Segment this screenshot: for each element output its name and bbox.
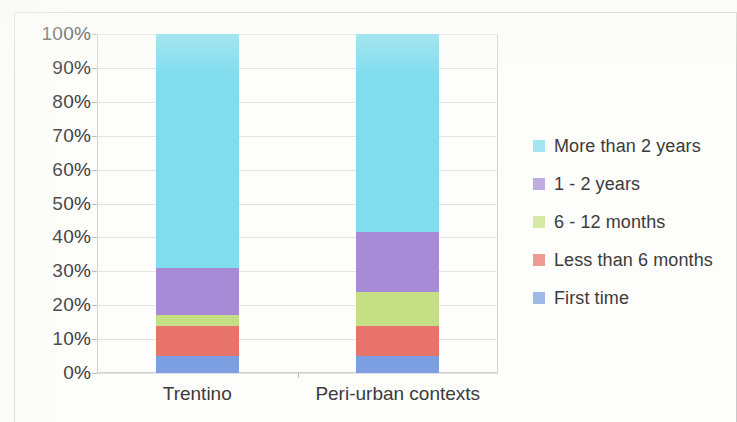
y-tick-mark xyxy=(92,34,97,35)
legend-entry[interactable]: 1 - 2 years xyxy=(533,165,731,203)
y-tick-mark xyxy=(92,68,97,69)
y-axis-tick-label: 80% xyxy=(13,91,91,113)
bar-segment[interactable] xyxy=(356,356,439,373)
bar-segment[interactable] xyxy=(356,232,439,291)
legend-swatch-icon xyxy=(533,140,545,152)
bar-segment[interactable] xyxy=(156,268,239,315)
bar-column[interactable] xyxy=(156,34,239,373)
y-axis-tick-label: 40% xyxy=(13,226,91,248)
bar-segment[interactable] xyxy=(156,356,239,373)
bar-segment[interactable] xyxy=(356,292,439,326)
legend-entry[interactable]: Less than 6 months xyxy=(533,241,731,279)
y-axis-tick-label: 30% xyxy=(13,260,91,282)
legend-swatch-icon xyxy=(533,178,545,190)
legend-entry[interactable]: 6 - 12 months xyxy=(533,203,731,241)
x-axis-category-label: Peri-urban contexts xyxy=(248,383,548,405)
y-axis-tick-label: 100% xyxy=(13,23,91,45)
bar-segment[interactable] xyxy=(356,326,439,357)
legend-label: 1 - 2 years xyxy=(554,174,640,195)
y-axis-tick-label: 20% xyxy=(13,294,91,316)
chart-legend: More than 2 years1 - 2 years6 - 12 month… xyxy=(533,127,731,317)
legend-swatch-icon xyxy=(533,292,545,304)
y-axis-tick-label: 60% xyxy=(13,159,91,181)
legend-label: 6 - 12 months xyxy=(554,212,665,233)
bar-segment[interactable] xyxy=(156,315,239,325)
y-axis-tick-label: 50% xyxy=(13,193,91,215)
y-tick-mark xyxy=(92,170,97,171)
y-tick-mark xyxy=(92,237,97,238)
bar-segment[interactable] xyxy=(356,34,439,232)
legend-label: First time xyxy=(554,288,629,309)
bar-segment[interactable] xyxy=(156,326,239,357)
y-tick-mark xyxy=(92,305,97,306)
legend-entry[interactable]: First time xyxy=(533,279,731,317)
y-tick-mark xyxy=(92,373,97,374)
y-axis-tick-label: 10% xyxy=(13,328,91,350)
plot-area xyxy=(97,34,498,373)
figure-border-top xyxy=(14,12,737,13)
legend-swatch-icon xyxy=(533,254,545,266)
bar-column[interactable] xyxy=(356,34,439,373)
legend-label: Less than 6 months xyxy=(554,250,713,271)
y-tick-mark xyxy=(92,339,97,340)
y-tick-mark xyxy=(92,102,97,103)
y-tick-mark xyxy=(92,136,97,137)
y-axis-tick-label: 70% xyxy=(13,125,91,147)
x-tick-mark xyxy=(298,372,299,378)
y-axis-tick-label: 90% xyxy=(13,57,91,79)
bar-segment[interactable] xyxy=(156,34,239,268)
y-axis-tick-label: 0% xyxy=(13,362,91,384)
legend-entry[interactable]: More than 2 years xyxy=(533,127,731,165)
legend-label: More than 2 years xyxy=(554,136,701,157)
stacked-bar-chart-figure: 100%90%80%70%60%50%40%30%20%10%0% Trenti… xyxy=(0,0,737,422)
y-tick-mark xyxy=(92,204,97,205)
y-tick-mark xyxy=(92,271,97,272)
legend-swatch-icon xyxy=(533,216,545,228)
